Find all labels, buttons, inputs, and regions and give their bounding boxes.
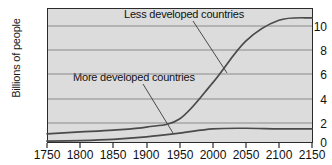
curve-less-developed (47, 18, 312, 134)
leader-line-less-developed (193, 21, 227, 73)
gridlines (48, 26, 312, 123)
x-axis-ticks (47, 143, 312, 148)
leader-lines (143, 21, 227, 133)
curve-more-developed (47, 128, 312, 141)
